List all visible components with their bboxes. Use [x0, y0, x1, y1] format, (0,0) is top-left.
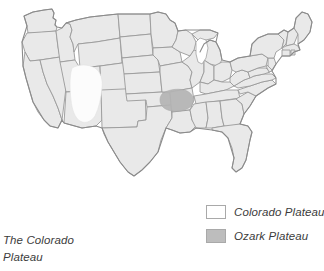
caption-line-1: The Colorado: [3, 232, 133, 249]
legend-item-ozark-plateau: Ozark Plateau: [206, 227, 323, 244]
state-new-york: [250, 34, 284, 58]
state-south-dakota: [120, 34, 153, 58]
state-washington: [24, 9, 57, 33]
us-map-container: [0, 0, 323, 205]
caption-line-2: Plateau: [3, 249, 133, 266]
state-connecticut: [282, 50, 290, 56]
state-missouri: [160, 62, 192, 92]
state-nebraska: [122, 55, 160, 74]
figure-caption: The Colorado Plateau: [3, 232, 133, 266]
state-ohio: [214, 62, 232, 82]
legend-item-colorado-plateau: Colorado Plateau: [206, 203, 323, 220]
state-minnesota: [150, 12, 178, 48]
legend-label-ozark-plateau: Ozark Plateau: [234, 230, 308, 242]
legend-label-colorado-plateau: Colorado Plateau: [234, 206, 324, 218]
legend-swatch-icon-ozark: [206, 229, 226, 243]
state-kansas: [124, 72, 162, 94]
map-legend: Colorado Plateau Ozark Plateau: [206, 203, 323, 251]
legend-swatch-icon-colorado: [206, 205, 226, 219]
us-map-svg: [0, 0, 323, 205]
state-north-dakota: [118, 14, 151, 37]
region-ozark-plateau: [160, 89, 193, 111]
